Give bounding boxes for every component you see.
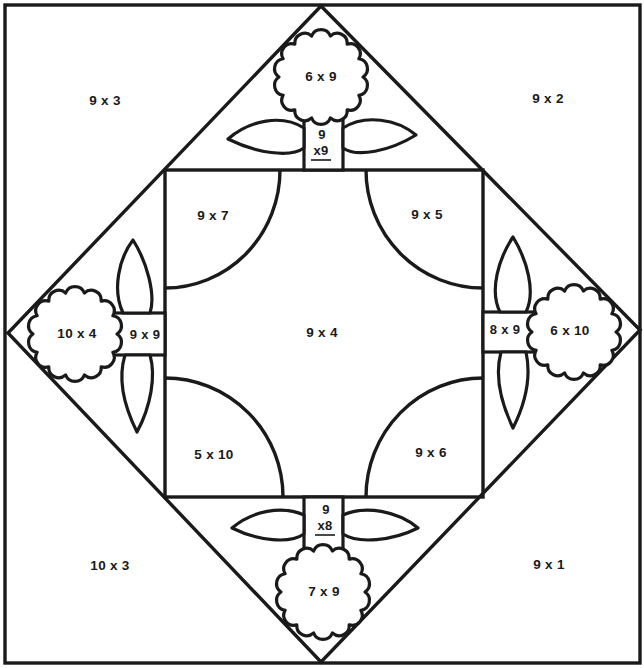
label-bloom-right: 6 x 10 <box>550 323 589 338</box>
label-center: 9 x 4 <box>306 325 338 340</box>
label-bloom-bottom: 7 x 9 <box>308 584 340 599</box>
color-by-number-worksheet: 9 x 3 9 x 2 10 x 3 9 x 1 9 x 4 9 x 7 9 x… <box>0 0 644 668</box>
label-corner-bottom-right: 9 x 1 <box>533 557 565 572</box>
label-quarter-top-left: 9 x 7 <box>197 208 229 223</box>
label-corner-top-left: 9 x 3 <box>89 93 121 108</box>
label-quarter-bottom-left: 5 x 10 <box>194 447 233 462</box>
label-bloom-left: 10 x 4 <box>57 326 97 341</box>
label-quarter-bottom-right: 9 x 6 <box>415 445 447 460</box>
label-stem-left: 9 x 9 <box>130 327 160 342</box>
label-quarter-top-right: 9 x 5 <box>411 207 443 222</box>
label-stem-right: 8 x 9 <box>490 322 520 337</box>
label-corner-top-right: 9 x 2 <box>532 91 564 106</box>
label-stem-bottom-upper: 9 <box>322 502 330 517</box>
label-bloom-top: 6 x 9 <box>305 69 337 84</box>
label-corner-bottom-left: 10 x 3 <box>90 558 130 573</box>
label-stem-top-upper: 9 <box>318 127 326 142</box>
label-stem-bottom-lower: x8 <box>317 518 332 533</box>
label-stem-top-lower: x9 <box>313 143 328 158</box>
